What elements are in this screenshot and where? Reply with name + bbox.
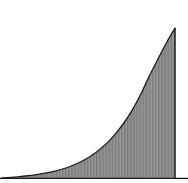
exponential-area-chart [0,0,188,183]
chart-figure [0,0,188,183]
